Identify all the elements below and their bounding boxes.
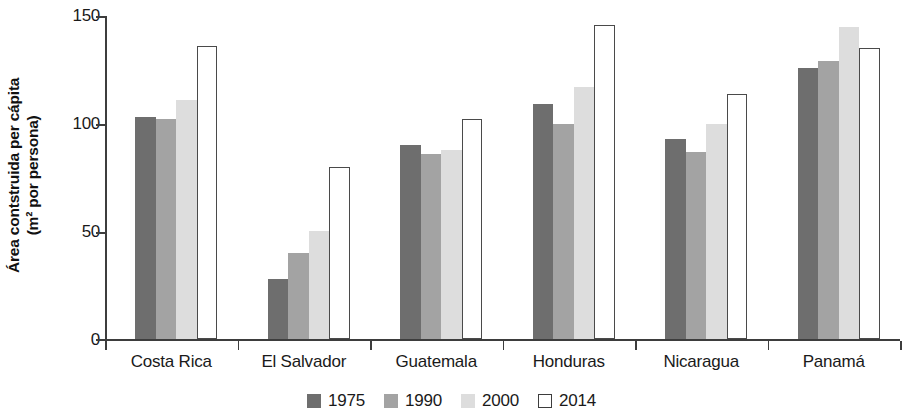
y-axis-title-line-2: (m² por persona) <box>24 77 43 272</box>
bar-panamá-1975 <box>798 68 819 339</box>
y-tick-mark-150 <box>96 16 105 18</box>
bar-nicaragua-2000 <box>706 124 727 339</box>
bar-panamá-2000 <box>839 27 860 339</box>
bar-chart-figure: Área contstruida per cápita (m² por pers… <box>0 0 903 416</box>
y-tick-label-150: 150 <box>54 6 100 26</box>
bar-el-salvador-2000 <box>309 231 330 339</box>
bar-el-salvador-1975 <box>268 279 289 339</box>
bar-honduras-1990 <box>553 124 574 339</box>
legend-swatch-1975 <box>307 394 321 408</box>
legend-item-2014[interactable]: 2014 <box>538 391 596 411</box>
bar-nicaragua-1990 <box>686 152 707 339</box>
x-axis-group-tick <box>768 341 770 350</box>
legend-item-1990[interactable]: 1990 <box>384 391 442 411</box>
y-axis-title: Área contstruida per cápita (m² por pers… <box>0 0 48 350</box>
bar-costa-rica-2014 <box>197 46 218 339</box>
legend-swatch-2000 <box>461 394 475 408</box>
bar-guatemala-2014 <box>462 119 483 339</box>
x-axis-group-tick <box>370 341 372 350</box>
x-axis-group-tick <box>900 341 902 350</box>
bar-guatemala-1975 <box>400 145 421 339</box>
legend-swatch-1990 <box>384 394 398 408</box>
chart-legend: 1975199020002014 <box>0 391 903 411</box>
legend-item-1975[interactable]: 1975 <box>307 391 365 411</box>
y-tick-mark-0 <box>96 339 105 341</box>
bar-costa-rica-2000 <box>176 100 197 339</box>
y-axis-title-line-1: Área contstruida per cápita <box>6 77 23 272</box>
bar-nicaragua-1975 <box>665 139 686 339</box>
legend-label-2014: 2014 <box>559 391 596 411</box>
y-tick-label-100: 100 <box>54 114 100 134</box>
plot-area <box>105 16 900 340</box>
legend-label-1975: 1975 <box>328 391 365 411</box>
x-axis-label-honduras: Honduras <box>533 352 605 372</box>
legend-swatch-2014 <box>538 394 552 408</box>
x-axis-label-costa-rica: Costa Rica <box>131 352 212 372</box>
x-axis-group-tick <box>238 341 240 350</box>
x-axis-label-guatemala: Guatemala <box>396 352 477 372</box>
bar-honduras-2014 <box>594 25 615 339</box>
bar-el-salvador-1990 <box>288 253 309 339</box>
y-tick-label-0: 0 <box>54 330 100 350</box>
bar-guatemala-1990 <box>421 154 442 339</box>
x-axis-group-tick <box>105 341 107 350</box>
bar-panamá-1990 <box>818 61 839 339</box>
bar-honduras-1975 <box>533 104 554 339</box>
x-axis-label-nicaragua: Nicaragua <box>663 352 739 372</box>
bar-panamá-2014 <box>859 48 880 339</box>
y-tick-label-50: 50 <box>54 222 100 242</box>
bar-costa-rica-1975 <box>135 117 156 339</box>
legend-item-2000[interactable]: 2000 <box>461 391 519 411</box>
bar-nicaragua-2014 <box>727 94 748 339</box>
bar-el-salvador-2014 <box>329 167 350 339</box>
x-axis-label-panamá: Panamá <box>803 352 865 372</box>
bar-honduras-2000 <box>574 87 595 339</box>
legend-label-2000: 2000 <box>482 391 519 411</box>
y-axis-line <box>105 16 107 340</box>
x-axis-group-tick <box>635 341 637 350</box>
y-axis-tick-labels: 150 100 50 0 <box>48 0 100 350</box>
x-axis-label-el-salvador: El Salvador <box>261 352 346 372</box>
bar-guatemala-2000 <box>441 150 462 339</box>
bar-costa-rica-1990 <box>156 119 177 339</box>
y-tick-mark-100 <box>96 124 105 126</box>
legend-label-1990: 1990 <box>405 391 442 411</box>
x-axis-group-tick <box>503 341 505 350</box>
y-tick-mark-50 <box>96 232 105 234</box>
